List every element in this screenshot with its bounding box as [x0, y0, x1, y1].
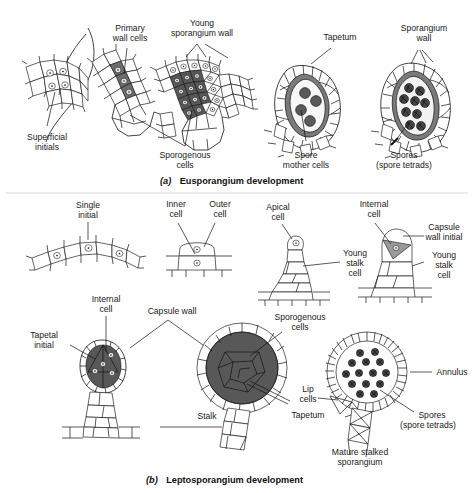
label-lip-cells-line2: cells [299, 394, 316, 404]
stage-a3-young-sporangium-wall: Young sporangium wall Sporogenous cells [130, 18, 258, 170]
label-capsule-wall-initial-line1: Capsule [428, 222, 460, 232]
stage-b7-mature-sporangium: Annulus Lip cells Spores (spore tetrads)… [299, 332, 467, 467]
stage-b4-capsule-wall-initial: Internal cell Capsule wall initial Young… [358, 199, 462, 303]
label-capsule-wall: Capsule wall [148, 306, 197, 316]
panel-a-eusporangium: Superficial initials [22, 18, 450, 187]
label-sporogenous-cells-b-line2: cells [291, 322, 308, 332]
caption-panel-b: (b) Leptosporangium development [146, 469, 303, 486]
label-sporogenous-cells-line1: Sporogenous [159, 150, 210, 160]
label-internal-cell-bottom-line1: Internal [92, 294, 121, 304]
label-lip-cells-line1: Lip [302, 384, 314, 394]
label-tapetal-initial-line1: Tapetal [30, 330, 58, 340]
stage-b1-single-initial: Single initial [26, 200, 146, 271]
label-sporangium-wall-line1: Sporangium [401, 23, 447, 33]
label-mature-stalked-sporangium-line1: Mature stalked [332, 447, 389, 457]
panel-b-leptosporangium: Single initial Inner cell Outer cell [26, 199, 468, 486]
label-internal-cell-top-line2: cell [368, 209, 381, 219]
stage-b5-tapetal-initial: Internal cell Tapetal initial Capsule wa… [30, 294, 210, 438]
label-internal-cell-top-line1: Internal [360, 199, 389, 209]
label-young-stalk-cell1-line3: cell [349, 268, 362, 278]
label-young-sporangium-wall-line1: Young [190, 18, 214, 28]
label-single-initial-line2: initial [78, 210, 98, 220]
stage-b2-inner-outer-cell: Inner cell Outer cell [166, 199, 232, 277]
stage-b6-sporogenous-tapetum: Sporogenous cells Tapetum Stalk [160, 312, 326, 450]
caption-panel-a: (a) Eusporangium development [160, 170, 303, 187]
label-young-sporangium-wall-line2: sporangium wall [171, 28, 233, 38]
label-tapetum: Tapetum [324, 32, 357, 42]
label-spores-tetrads-line1: Spores [390, 150, 417, 160]
label-sporangium-wall-line2: wall [416, 33, 432, 43]
label-single-initial-line1: Single [76, 200, 100, 210]
caption-b-tag: (b) [146, 475, 158, 485]
label-primary-wall-cells-line1: Primary [115, 23, 145, 33]
stage-b3-apical-cell: Apical cell Young stalk cell [258, 202, 367, 306]
label-spore-mother-cells-line1: Spore [295, 150, 318, 160]
figure-root: Superficial initials [0, 0, 474, 493]
label-superficial-initials-line2: initials [35, 142, 59, 152]
label-apical-cell-line1: Apical [266, 202, 289, 212]
label-young-stalk-cell2-line2: stalk [435, 260, 453, 270]
label-young-stalk-cell1-line2: stalk [346, 258, 364, 268]
caption-a-tag: (a) [160, 176, 171, 186]
label-stalk: Stalk [197, 411, 217, 421]
label-inner-cell-line1: Inner [166, 199, 186, 209]
stage-a5-spores-tetrads: Sporangium wall Spores (spore tetrads) [371, 23, 450, 170]
label-outer-cell-line2: cell [214, 209, 227, 219]
label-spores-tetrads-b-line1: Spores [418, 410, 445, 420]
label-young-stalk-cell2-line3: cell [438, 270, 451, 280]
sporangium-development-figure: Superficial initials [0, 0, 474, 493]
label-tapetal-initial-line2: initial [34, 340, 54, 350]
caption-b-text: Leptosporangium development [166, 475, 303, 485]
label-young-stalk-cell1-line1: Young [343, 248, 367, 258]
label-apical-cell-line2: cell [272, 212, 285, 222]
caption-a-text: Eusporangium development [180, 176, 304, 186]
stage-a4-spore-mother-cells: Tapetum Spore mother cells [264, 32, 356, 170]
label-capsule-wall-initial-line2: wall initial [425, 232, 463, 242]
label-spore-mother-cells-line2: mother cells [283, 160, 329, 170]
label-sporogenous-cells-b-line1: Sporogenous [274, 312, 325, 322]
label-inner-cell-line2: cell [170, 209, 183, 219]
label-spores-tetrads-b-line2: (spore tetrads) [400, 420, 456, 430]
label-superficial-initials-line1: Superficial [27, 132, 67, 142]
label-annulus: Annulus [436, 367, 467, 377]
stage-a2-primary-wall-cells: Primary wall cells [87, 23, 155, 136]
label-spores-tetrads-line2: (spore tetrads) [376, 160, 432, 170]
label-internal-cell-bottom-line2: cell [100, 304, 113, 314]
label-sporogenous-cells-line2: cells [176, 160, 193, 170]
label-primary-wall-cells-line2: wall cells [112, 33, 147, 43]
stage-a1-superficial-initials: Superficial initials [22, 28, 94, 152]
label-young-stalk-cell2-line1: Young [432, 250, 456, 260]
label-tapetum-b: Tapetum [292, 410, 325, 420]
label-mature-stalked-sporangium-line2: sporangium [338, 457, 383, 467]
label-outer-cell-line1: Outer [209, 199, 231, 209]
